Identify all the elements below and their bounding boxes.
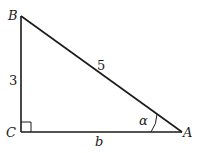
right-angle-marker xyxy=(21,122,31,132)
side-label-ca: b xyxy=(95,134,103,149)
angle-label-alpha: α xyxy=(139,113,148,128)
side-label-bc: 3 xyxy=(9,73,17,88)
triangle-edges xyxy=(21,16,182,132)
angle-alpha-arc xyxy=(151,114,157,132)
vertex-label-c: C xyxy=(6,125,16,140)
vertex-label-b: B xyxy=(7,8,18,23)
side-ab xyxy=(21,16,182,132)
vertex-label-a: A xyxy=(182,125,192,140)
triangle-diagram: B C A 3 5 b α xyxy=(0,0,200,153)
side-label-ab: 5 xyxy=(97,58,105,73)
